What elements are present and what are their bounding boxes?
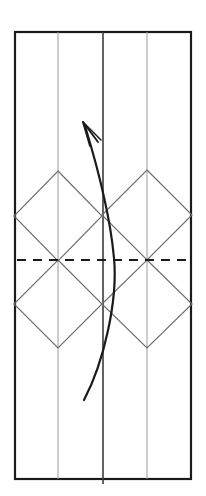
figure-canvas	[0, 0, 206, 496]
geometric-diagram	[0, 0, 206, 496]
